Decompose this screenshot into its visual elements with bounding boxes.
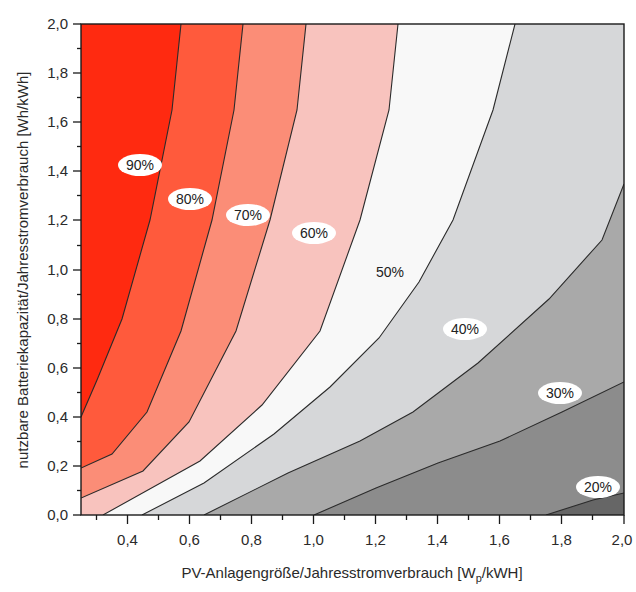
svg-text:0,8: 0,8	[241, 531, 262, 548]
svg-text:60%: 60%	[300, 225, 328, 241]
svg-text:0,6: 0,6	[47, 359, 68, 376]
contour-label-30: 30%	[538, 382, 582, 404]
svg-text:1,6: 1,6	[47, 113, 68, 130]
contour-label-50: 50%	[376, 264, 404, 280]
svg-text:50%: 50%	[376, 264, 404, 280]
y-tick-labels: 0,0 0,2 0,4 0,6 0,8 1,0 1,2 1,4 1,6 1,8 …	[47, 15, 68, 523]
svg-text:1,6: 1,6	[489, 531, 510, 548]
svg-text:1,0: 1,0	[303, 531, 324, 548]
svg-text:1,0: 1,0	[47, 261, 68, 278]
contour-label-90: 90%	[118, 154, 162, 176]
svg-text:1,2: 1,2	[365, 531, 386, 548]
svg-text:0,4: 0,4	[117, 531, 138, 548]
svg-text:0,4: 0,4	[47, 408, 68, 425]
svg-text:90%: 90%	[126, 157, 154, 173]
svg-text:1,2: 1,2	[47, 211, 68, 228]
contour-label-60: 60%	[292, 222, 336, 244]
svg-text:70%: 70%	[234, 207, 262, 223]
svg-text:30%: 30%	[546, 385, 574, 401]
y-axis-title: nutzbare Batteriekapazität/Jahresstromve…	[14, 72, 31, 469]
contour-label-80: 80%	[168, 188, 212, 210]
contour-label-70: 70%	[226, 204, 270, 226]
contour-label-40: 40%	[443, 318, 487, 340]
y-axis	[73, 24, 81, 515]
svg-text:40%: 40%	[451, 321, 479, 337]
x-axis-title: PV-Anlagengröße/Jahresstromverbrauch [Wp…	[181, 564, 522, 584]
svg-text:1,8: 1,8	[47, 64, 68, 81]
svg-text:1,8: 1,8	[551, 531, 572, 548]
plot-area: 90% 80% 70% 60% 50% 40%	[81, 24, 624, 515]
svg-text:0,6: 0,6	[179, 531, 200, 548]
svg-text:0,2: 0,2	[47, 457, 68, 474]
svg-text:1,4: 1,4	[427, 531, 448, 548]
x-axis	[97, 515, 625, 524]
svg-text:0,8: 0,8	[47, 310, 68, 327]
svg-text:20%: 20%	[584, 479, 612, 495]
contour-label-20: 20%	[576, 476, 620, 498]
svg-text:2,0: 2,0	[47, 15, 68, 32]
svg-text:0,0: 0,0	[47, 506, 68, 523]
svg-text:80%: 80%	[176, 191, 204, 207]
svg-text:1,4: 1,4	[47, 162, 68, 179]
contour-chart: 90% 80% 70% 60% 50% 40%	[0, 0, 636, 592]
x-tick-labels: 0,4 0,6 0,8 1,0 1,2 1,4 1,6 1,8 2,0	[117, 531, 632, 548]
svg-text:2,0: 2,0	[612, 531, 633, 548]
